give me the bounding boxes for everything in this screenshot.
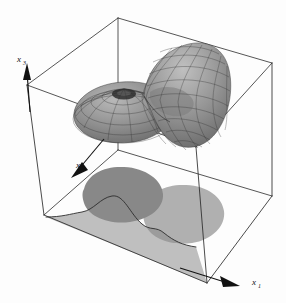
figure-root: x 3 x 2 x 1 bbox=[0, 0, 286, 303]
x3-axis-label: x bbox=[16, 54, 21, 64]
density-surface-plot: x 3 x 2 x 1 bbox=[0, 0, 286, 303]
x2-axis-label: x bbox=[75, 160, 80, 170]
x2-axis-label-subscript: 2 bbox=[82, 166, 85, 172]
x3-axis-label-subscript: 3 bbox=[22, 60, 26, 66]
x1-axis-label: x bbox=[251, 277, 256, 287]
x1-axis-label-subscript: 1 bbox=[258, 283, 261, 289]
plot-background bbox=[0, 0, 286, 303]
